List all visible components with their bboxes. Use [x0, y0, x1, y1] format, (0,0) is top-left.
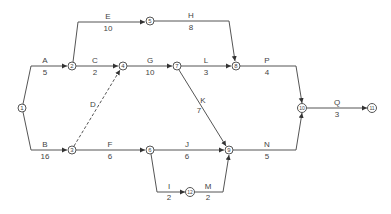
label-L-duration: 3 [204, 68, 209, 77]
node-12: 12 [186, 188, 195, 197]
label-P-name: P [264, 56, 269, 65]
label-E-name: E [105, 12, 110, 21]
edge-labels: A 5 B 16 C 2 D E 10 F 6 G 10 H 8 I 2 J 6… [41, 11, 341, 202]
label-K-duration: 7 [197, 106, 202, 115]
edge-P [240, 66, 302, 103]
edge-M [194, 155, 229, 192]
label-H-duration: 8 [189, 23, 194, 32]
node-10-label: 10 [299, 105, 305, 111]
label-I-name: I [168, 182, 170, 191]
node-10: 10 [298, 104, 307, 113]
label-Q-duration: 3 [335, 110, 340, 119]
label-I-duration: 2 [167, 193, 172, 202]
network-diagram: A 5 B 16 C 2 D E 10 F 6 G 10 H 8 I 2 J 6… [0, 0, 391, 214]
label-K-name: K [200, 96, 206, 105]
label-F-name: F [108, 140, 113, 149]
label-B-name: B [42, 140, 47, 149]
label-E-duration: 10 [104, 24, 113, 33]
label-Q-name: Q [334, 98, 340, 107]
node-11: 11 [368, 104, 377, 113]
label-J-duration: 6 [185, 152, 190, 161]
label-J-name: J [185, 140, 189, 149]
label-G-duration: 10 [146, 68, 155, 77]
label-L-name: L [204, 56, 209, 65]
node-12-label: 12 [187, 189, 193, 195]
edge-K [179, 70, 226, 146]
label-B-duration: 16 [41, 152, 50, 161]
node-1: 1 [18, 104, 26, 112]
node-4: 4 [119, 62, 127, 70]
label-D-name: D [90, 100, 96, 109]
node-8: 8 [232, 62, 240, 70]
label-N-name: N [264, 140, 270, 149]
label-G-name: G [147, 56, 153, 65]
label-A-duration: 5 [43, 68, 48, 77]
node-2: 2 [68, 62, 76, 70]
label-N-duration: 5 [265, 152, 270, 161]
node-9: 9 [225, 146, 233, 154]
node-5: 5 [146, 17, 154, 25]
label-H-name: H [188, 11, 194, 20]
edge-H [154, 21, 235, 61]
label-F-duration: 6 [108, 152, 113, 161]
node-11-label: 11 [369, 105, 374, 111]
edge-D [74, 70, 120, 146]
label-P-duration: 4 [265, 68, 270, 77]
label-C-name: C [92, 56, 98, 65]
node-6: 6 [146, 146, 154, 154]
label-M-duration: 2 [206, 193, 211, 202]
node-7: 7 [173, 62, 181, 70]
label-A-name: A [42, 56, 48, 65]
label-M-name: M [205, 182, 212, 191]
edges [23, 21, 367, 192]
label-C-duration: 2 [93, 68, 98, 77]
node-3: 3 [68, 146, 76, 154]
